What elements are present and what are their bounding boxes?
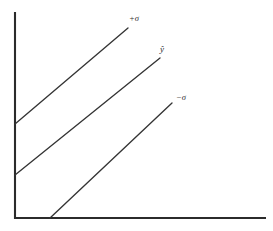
fitted-line-label: ŷ — [160, 45, 164, 54]
lower-band-label: −σ — [176, 93, 186, 102]
figure-canvas — [0, 0, 273, 231]
fitted-regression-line — [15, 58, 160, 175]
regression-band-figure: +σ ŷ −σ — [0, 0, 273, 231]
lower-band-line — [50, 103, 172, 218]
upper-band-label: +σ — [129, 14, 139, 23]
upper-band-line — [15, 28, 128, 124]
